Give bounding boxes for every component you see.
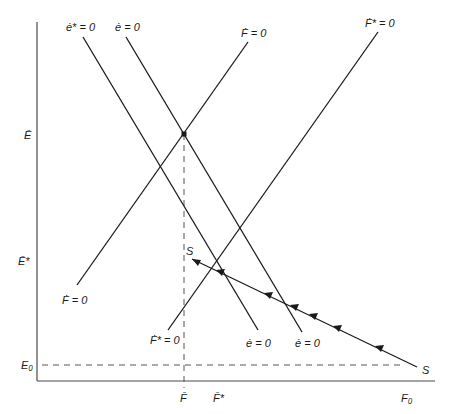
label-e-dot-zero-top: ė = 0 xyxy=(115,22,140,33)
label-e-dot-zero-bottom-1: ė = 0 xyxy=(246,338,271,349)
equilibrium-point xyxy=(182,132,187,137)
label-f-dot-zero-top: Ḟ = 0 xyxy=(241,28,266,39)
arrow-icon xyxy=(264,292,273,299)
label-f-star-dot-zero-bottom: Ḟ* = 0 xyxy=(150,335,180,346)
f-star-dot-zero-line xyxy=(168,32,378,330)
e-star-dot-zero-line xyxy=(83,37,258,330)
label-x-f0: F₀ xyxy=(401,393,412,404)
saddle-path xyxy=(192,259,417,367)
label-y-e-bar: Ē xyxy=(24,130,31,141)
saddle-path-end-arrow-icon xyxy=(192,259,201,266)
label-e-star-dot-zero-top: ė* = 0 xyxy=(66,22,95,33)
label-f-star-dot-zero-top: Ḟ* = 0 xyxy=(365,18,395,29)
phase-diagram xyxy=(0,0,449,414)
label-saddle-s-start: S xyxy=(186,246,193,257)
label-x-f-bar: F̄ xyxy=(180,393,187,404)
label-x-f-bar-star: F̄* xyxy=(213,393,224,404)
label-y-e-bar-star: Ē* xyxy=(18,256,30,267)
label-f-dot-zero-bottom: Ḟ = 0 xyxy=(62,295,87,306)
label-e-dot-zero-bottom-2: ė = 0 xyxy=(295,338,320,349)
label-saddle-s-end: S xyxy=(422,365,429,376)
label-y-e0: E₀ xyxy=(21,360,33,371)
e-dot-zero-line xyxy=(126,37,302,332)
f-dot-zero-line xyxy=(77,42,248,285)
